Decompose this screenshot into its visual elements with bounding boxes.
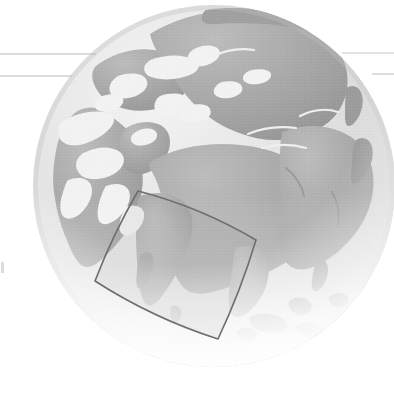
- globe-canvas: [0, 0, 394, 395]
- globe-illustration: World Globe with Highlighted Map Region …: [0, 0, 394, 395]
- left-edge-tick: [1, 262, 4, 273]
